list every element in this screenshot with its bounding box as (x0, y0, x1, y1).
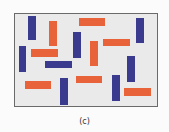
orange-horizontal-bar (124, 88, 151, 96)
blue-vertical-bar (19, 46, 26, 72)
blue-vertical-bar (73, 32, 81, 58)
figure-caption: (c) (0, 117, 169, 126)
orange-horizontal-bar (25, 81, 51, 89)
blue-horizontal-bar (45, 61, 72, 68)
orange-horizontal-bar (79, 18, 105, 26)
blue-vertical-bar (60, 78, 68, 105)
orange-horizontal-bar (31, 49, 58, 57)
blue-vertical-bar (136, 18, 144, 43)
orange-vertical-bar (90, 41, 98, 66)
orange-horizontal-bar (76, 76, 102, 83)
blue-vertical-bar (28, 16, 36, 40)
blue-vertical-bar (127, 56, 135, 82)
orange-vertical-bar (49, 21, 57, 46)
blue-vertical-bar (112, 75, 120, 101)
orange-horizontal-bar (103, 39, 130, 46)
figure-canvas: (c) (0, 0, 169, 132)
